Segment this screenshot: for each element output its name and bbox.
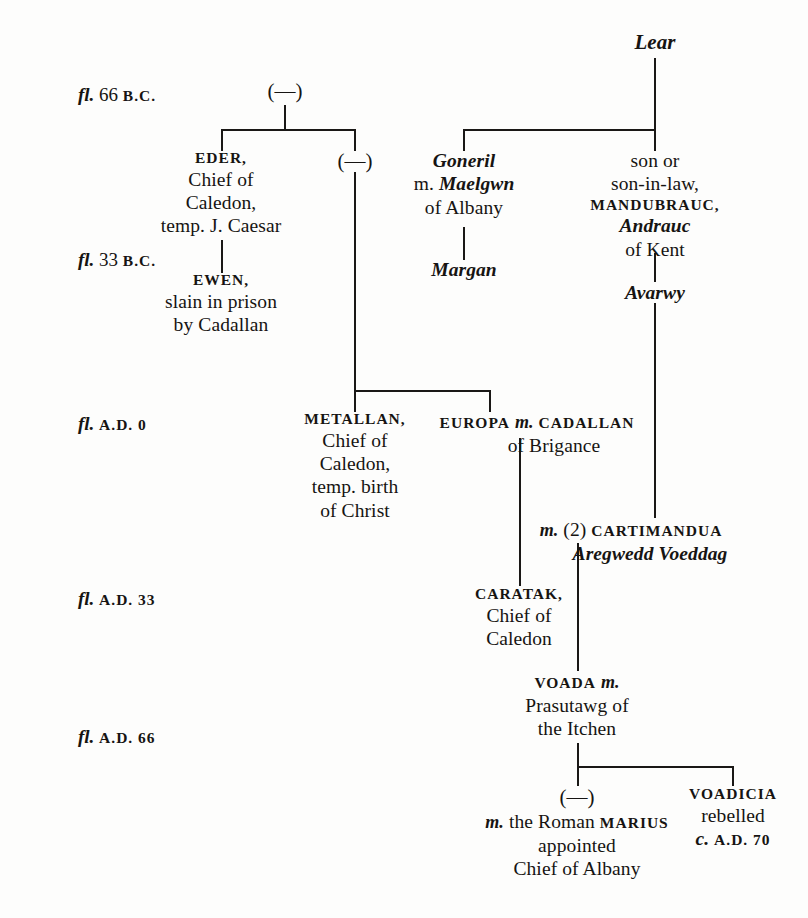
mandubrauc-line1: son or (590, 149, 719, 172)
connector-eder-to-ewen (221, 240, 223, 273)
voada-line3: the Itchen (525, 717, 629, 740)
ewen-line2: slain in prison (165, 290, 277, 313)
avarwy-name: Avarwy (625, 281, 685, 304)
voada-marriage-marker: m. (601, 672, 620, 692)
cartimandua-name: CARTIMANDUA (591, 522, 722, 539)
cartimandua-marriage-line: m. (2) CARTIMANDUA (535, 518, 728, 542)
caratak-line3: Caledon (475, 627, 563, 650)
node-europa-cadallan: EUROPA m. CADALLAN of Brigance (440, 410, 635, 457)
date-era: B.C. (123, 252, 156, 269)
connector-sibling-bar-eder (222, 129, 356, 131)
eder-line4: temp. J. Caesar (161, 214, 282, 237)
connector-drop-unknown-daughter (577, 766, 579, 786)
europa-name: EUROPA (440, 414, 510, 431)
date-number: 33 (99, 249, 118, 270)
node-metallan: METALLAN, Chief of Caledon, temp. birth … (304, 410, 405, 522)
goneril-line3: of Albany (414, 196, 515, 219)
node-eder: EDER, Chief of Caledon, temp. J. Caesar (161, 149, 282, 238)
unknown-glyph: (—) (485, 785, 668, 810)
europa-marriage-marker: m. (515, 412, 534, 432)
connector-unknown-second-spine (354, 172, 356, 391)
date-label-ad-0: fl. A.D. 0 (78, 413, 147, 435)
connector-sibling-bar-voada-children (577, 766, 734, 768)
date-era: B.C. (123, 87, 156, 104)
node-avarwy: Avarwy (625, 281, 685, 304)
cartimandua-alt-name: Aregwedd Voeddag (573, 542, 728, 565)
voadicia-circa: c. (695, 828, 709, 849)
eder-line2: Chief of (161, 168, 282, 191)
date-prefix: fl. (78, 588, 94, 609)
connector-drop-mandubrauc (654, 129, 656, 151)
voadicia-line2: rebelled (689, 804, 777, 827)
connector-sibling-bar-metallan-europa (354, 390, 491, 392)
voada-marriage-line: VOADA m. (525, 670, 629, 694)
metallan-name: METALLAN, (304, 410, 405, 429)
metallan-line2: Chief of (304, 429, 405, 452)
connector-drop-eder (221, 129, 223, 151)
mandubrauc-line2: son-in-law, (590, 172, 719, 195)
date-prefix: fl. (78, 84, 94, 105)
cadallan-line2: of Brigance (474, 434, 635, 457)
node-unknown-daughter: (—) m. the Roman MARIUS appointed Chief … (485, 785, 668, 881)
voadicia-name: VOADICIA (689, 785, 777, 804)
unknown-daughter-line2-pre: the Roman (509, 811, 595, 832)
voadicia-date-line: c. A.D. 70 (689, 827, 777, 850)
date-prefix: fl. (78, 413, 94, 434)
node-unknown-second: (—) (338, 149, 373, 174)
goneril-name: Goneril (414, 149, 515, 172)
connector-sibling-bar-lear (464, 129, 656, 131)
node-ewen: EWEN, slain in prison by Cadallan (165, 271, 277, 336)
node-voada: VOADA m. Prasutawg of the Itchen (525, 670, 629, 740)
lear-name: Lear (634, 30, 675, 55)
node-unknown-top: (—) (268, 79, 303, 104)
date-label-ad-66: fl. A.D. 66 (78, 726, 156, 748)
unknown-daughter-line3: appointed (485, 834, 668, 857)
europa-marriage-line: EUROPA m. CADALLAN (440, 410, 635, 434)
connector-drop-europa (489, 390, 491, 412)
mandubrauc-alt-name: Andrauc (590, 214, 719, 237)
node-lear: Lear (634, 30, 675, 55)
connector-drop-unknown-second (354, 129, 356, 151)
voadicia-line3: A.D. 70 (714, 831, 771, 848)
connector-europa-to-caratak (519, 438, 521, 586)
date-era: A.D. 66 (99, 729, 156, 746)
voada-name: VOADA (534, 674, 596, 691)
ewen-line3: by Cadallan (165, 313, 277, 336)
unknown-daughter-marriage-marker: m. (485, 812, 504, 832)
connector-voada-stem (577, 743, 579, 767)
node-caratak: CARATAK, Chief of Caledon (475, 585, 563, 650)
node-margan: Margan (431, 258, 497, 281)
mandubrauc-line5: of Kent (590, 238, 719, 261)
caratak-name: CARATAK, (475, 585, 563, 604)
marius-name: MARIUS (600, 814, 669, 831)
node-cartimandua: m. (2) CARTIMANDUA Aregwedd Voeddag (535, 518, 728, 565)
voada-line2: Prasutawg of (525, 694, 629, 717)
metallan-line5: of Christ (304, 499, 405, 522)
node-voadicia: VOADICIA rebelled c. A.D. 70 (689, 785, 777, 850)
date-prefix: fl. (78, 249, 94, 270)
cartimandua-marriage-marker: m. (540, 520, 559, 540)
unknown-glyph: (—) (268, 79, 303, 104)
mandubrauc-name: MANDUBRAUC, (590, 196, 719, 215)
eder-name: EDER, (161, 149, 282, 168)
connector-lear-stem (654, 58, 656, 130)
date-era: A.D. 0 (99, 416, 147, 433)
date-era: A.D. 33 (99, 591, 156, 608)
genealogy-chart-sheet: fl. 66 B.C. fl. 33 B.C. fl. A.D. 0 fl. A… (0, 0, 808, 918)
unknown-daughter-marriage-line: m. the Roman MARIUS (485, 810, 668, 834)
connector-drop-goneril (463, 129, 465, 151)
cartimandua-ordinal: (2) (563, 519, 586, 540)
date-label-66-bc: fl. 66 B.C. (78, 84, 156, 106)
date-number: 66 (99, 84, 118, 105)
unknown-glyph: (—) (338, 149, 373, 174)
cadallan-name: CADALLAN (539, 414, 635, 431)
metallan-line3: Caledon, (304, 452, 405, 475)
goneril-spouse: Maelgwn (439, 173, 514, 194)
metallan-line4: temp. birth (304, 475, 405, 498)
node-mandubrauc: son or son-in-law, MANDUBRAUC, Andrauc o… (590, 149, 719, 261)
caratak-line2: Chief of (475, 604, 563, 627)
date-prefix: fl. (78, 726, 94, 747)
connector-drop-metallan (354, 390, 356, 412)
unknown-daughter-line4: Chief of Albany (485, 857, 668, 880)
connector-goneril-to-margan (463, 227, 465, 260)
